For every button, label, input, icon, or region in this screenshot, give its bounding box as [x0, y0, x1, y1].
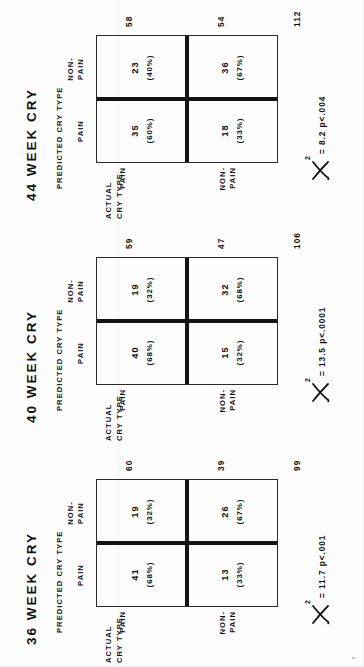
cell-count: 15	[219, 346, 231, 358]
cell-percent: (68%)	[144, 340, 156, 366]
grand-total: 112	[292, 10, 302, 27]
cell-count: 40	[129, 346, 141, 358]
column-header-nonpain: NON- PAIN	[66, 41, 86, 97]
chi-square-value-text: = 13.5 p<.0001	[317, 307, 327, 376]
table-cell: 35 (60%)	[97, 99, 187, 162]
actual-cry-type-stub-line1: ACTUAL	[103, 173, 114, 219]
chi-square-statistic: 2 = 8.2 p<.004	[306, 96, 332, 183]
table-cell: 19 (32%)	[97, 258, 187, 321]
row-label-nonpain-line2: PAIN	[228, 167, 238, 215]
cell-count: 19	[129, 505, 141, 517]
table-cell: 41 (68%)	[97, 543, 187, 606]
row-total: 47	[216, 225, 226, 249]
row-label-pain-line1: PAIN	[118, 389, 128, 437]
cell-percent: (32%)	[234, 340, 246, 366]
chi-exponent: 2	[304, 600, 311, 604]
cell-percent: (33%)	[234, 562, 246, 588]
cell-count: 41	[129, 568, 141, 580]
row-label-nonpain: NON- PAIN	[218, 389, 238, 437]
cell-percent: (67%)	[234, 55, 246, 81]
row-label-pain-line1: PAIN	[118, 611, 128, 659]
row-label-nonpain-line1: NON-	[218, 611, 228, 659]
grand-total: 99	[292, 460, 302, 471]
column-header-nonpain-line2: PAIN	[76, 485, 86, 541]
cell-percent: (60%)	[144, 118, 156, 144]
row-label-nonpain: NON- PAIN	[218, 611, 238, 659]
column-header-pain: PAIN	[76, 103, 86, 159]
column-header-nonpain-line1: NON-	[66, 485, 76, 541]
predicted-cry-type-header: PREDICTED CRY TYPE	[55, 87, 64, 189]
scanned-figure-page: 36 WEEK CRY PREDICTED CRY TYPE PAIN NON-…	[0, 0, 364, 667]
contingency-matrix: 40 (68%) 19 (32%) 15 (32%) 32 (68%)	[96, 257, 278, 385]
table-cell: 26 (67%)	[187, 480, 277, 543]
grand-total: 106	[292, 232, 302, 249]
column-header-nonpain-line1: NON-	[66, 263, 76, 319]
row-total: 54	[216, 3, 226, 27]
table-cell: 18 (33%)	[187, 99, 277, 162]
chi-squared-icon: 2	[306, 157, 332, 183]
chi-squared-icon: 2	[306, 601, 332, 627]
table-title: 44 WEEK CRY	[24, 88, 39, 201]
table-cell: 13 (33%)	[187, 543, 277, 606]
row-total: 58	[124, 3, 134, 27]
table-cell: 40 (68%)	[97, 321, 187, 384]
chi-square-statistic: 2 = 11.7 p<.001	[306, 535, 332, 627]
cell-percent: (32%)	[144, 277, 156, 303]
column-header-pain: PAIN	[76, 547, 86, 603]
column-header-nonpain-line1: NON-	[66, 41, 76, 97]
row-label-nonpain-line1: NON-	[218, 167, 228, 215]
row-label-nonpain-line2: PAIN	[228, 389, 238, 437]
cell-percent: (40%)	[144, 55, 156, 81]
column-header-nonpain-line2: PAIN	[76, 41, 86, 97]
row-label-pain: PAIN	[118, 389, 128, 437]
row-label-nonpain-line2: PAIN	[228, 611, 238, 659]
matrix-horizontal-rule	[185, 258, 188, 384]
actual-cry-type-stub-line1: ACTUAL	[103, 617, 114, 663]
chi-squared-icon: 2	[306, 379, 332, 405]
column-header-pain: PAIN	[76, 325, 86, 381]
chi-square-statistic: 2 = 13.5 p<.0001	[306, 307, 332, 405]
cell-count: 19	[129, 283, 141, 295]
chi-square-value-text: = 8.2 p<.004	[317, 96, 327, 154]
cell-count: 18	[219, 124, 231, 136]
table-cell: 36 (67%)	[187, 36, 277, 99]
page-rotation-wrapper: 36 WEEK CRY PREDICTED CRY TYPE PAIN NON-…	[0, 0, 364, 667]
row-label-nonpain-line1: NON-	[218, 389, 228, 437]
table-block-44-week: 44 WEEK CRY PREDICTED CRY TYPE PAIN NON-…	[0, 1, 364, 223]
table-title: 40 WEEK CRY	[24, 310, 39, 423]
cell-percent: (67%)	[234, 499, 246, 525]
table-title: 36 WEEK CRY	[24, 532, 39, 645]
row-total: 59	[124, 225, 134, 249]
row-total: 39	[216, 447, 226, 471]
column-header-nonpain: NON- PAIN	[66, 263, 86, 319]
table-cell: 32 (68%)	[187, 258, 277, 321]
column-header-nonpain: NON- PAIN	[66, 485, 86, 541]
contingency-matrix: 41 (68%) 19 (32%) 13 (33%) 26 (67%)	[96, 479, 278, 607]
row-label-nonpain: NON- PAIN	[218, 167, 238, 215]
cell-percent: (68%)	[144, 562, 156, 588]
chi-square-value-text: = 11.7 p<.001	[317, 535, 327, 598]
cell-percent: (32%)	[144, 499, 156, 525]
cell-count: 23	[129, 61, 141, 73]
predicted-cry-type-header: PREDICTED CRY TYPE	[55, 531, 64, 633]
row-total: 60	[124, 447, 134, 471]
cell-count: 36	[219, 61, 231, 73]
cell-count: 26	[219, 505, 231, 517]
row-label-pain-line1: PAIN	[118, 167, 128, 215]
predicted-cry-type-header: PREDICTED CRY TYPE	[55, 309, 64, 411]
chi-exponent: 2	[304, 156, 311, 160]
cell-count: 35	[129, 124, 141, 136]
chi-exponent: 2	[304, 378, 311, 382]
row-label-pain: PAIN	[118, 167, 128, 215]
matrix-horizontal-rule	[185, 36, 188, 162]
cell-percent: (68%)	[234, 277, 246, 303]
table-cell: 23 (40%)	[97, 36, 187, 99]
actual-cry-type-stub-line1: ACTUAL	[103, 395, 114, 441]
column-header-nonpain-line2: PAIN	[76, 263, 86, 319]
cell-percent: (33%)	[234, 118, 246, 144]
row-label-pain: PAIN	[118, 611, 128, 659]
contingency-matrix: 35 (60%) 23 (40%) 18 (33%) 36 (67%)	[96, 35, 278, 163]
table-cell: 19 (32%)	[97, 480, 187, 543]
table-cell: 15 (32%)	[187, 321, 277, 384]
table-block-36-week: 36 WEEK CRY PREDICTED CRY TYPE PAIN NON-…	[0, 445, 364, 667]
